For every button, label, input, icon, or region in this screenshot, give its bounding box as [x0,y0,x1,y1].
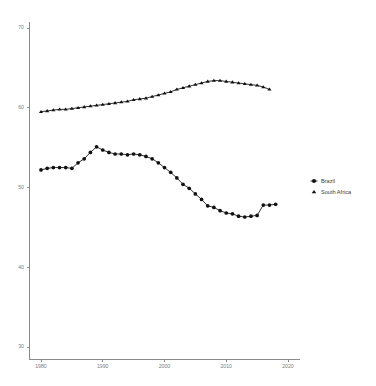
chart-figure: 304050607019801990200020102020 BrazilSou… [0,0,376,386]
data-point-circle [194,192,198,196]
data-point-circle [132,152,136,156]
axes [29,22,300,359]
data-point-circle [76,161,80,165]
y-tick-label: 50 [18,184,24,190]
data-point-circle [243,215,247,219]
data-point-circle [58,166,62,170]
legend-label: Brazil [321,178,335,184]
series-line [41,81,269,112]
data-point-circle [163,166,167,170]
y-tick-label: 40 [18,264,24,270]
x-tick-label: 2010 [220,363,232,369]
data-series [39,79,278,219]
data-point-circle [119,152,123,156]
data-point-circle [212,206,216,210]
y-tick-label: 70 [18,24,24,30]
data-point-circle [156,161,160,165]
data-point-circle [82,157,86,161]
data-point-circle [181,182,185,186]
axis-spines [29,22,300,359]
series-brazil [39,145,277,219]
data-point-circle [187,186,191,190]
data-point-circle [52,166,56,170]
x-tick-label: 1990 [97,363,109,369]
axis-ticks: 304050607019801990200020102020 [18,24,294,369]
data-point-circle [224,211,228,215]
x-tick-label: 1980 [35,363,47,369]
data-point-circle [64,166,68,170]
data-point-circle [95,145,99,149]
data-point-circle [89,151,93,155]
data-point-circle [249,214,253,218]
data-point-circle [150,157,154,161]
data-point-circle [107,151,111,155]
data-point-circle [39,168,43,172]
data-point-circle [255,214,259,218]
data-point-circle [101,148,105,152]
legend-item-brazil[interactable]: Brazil [311,178,335,184]
series-line [41,147,276,217]
data-point-circle [231,212,235,216]
data-point-circle [144,155,148,159]
legend-item-south-africa[interactable]: South Africa [312,189,352,195]
data-point-circle [169,170,173,174]
data-point-circle [261,203,265,207]
chart-plot-area: 304050607019801990200020102020 BrazilSou… [0,0,376,386]
chart-legend: BrazilSouth Africa [311,178,352,195]
data-point-circle [70,167,74,171]
legend-label: South Africa [321,189,352,195]
data-point-circle [175,176,179,180]
data-point-circle [274,202,278,206]
data-point-circle [200,198,204,202]
data-point-circle [218,209,222,213]
y-tick-label: 30 [18,343,24,349]
y-tick-label: 60 [18,104,24,110]
x-tick-label: 2000 [159,363,171,369]
data-point-circle [237,214,241,218]
data-point-circle [113,152,117,156]
data-point-circle [126,153,130,157]
data-point-circle [268,203,272,207]
triangle-marker-icon [312,190,317,193]
data-point-circle [45,167,49,171]
x-tick-label: 2020 [282,363,294,369]
data-point-circle [138,153,142,157]
data-point-circle [206,204,210,208]
series-south-africa [39,79,272,113]
